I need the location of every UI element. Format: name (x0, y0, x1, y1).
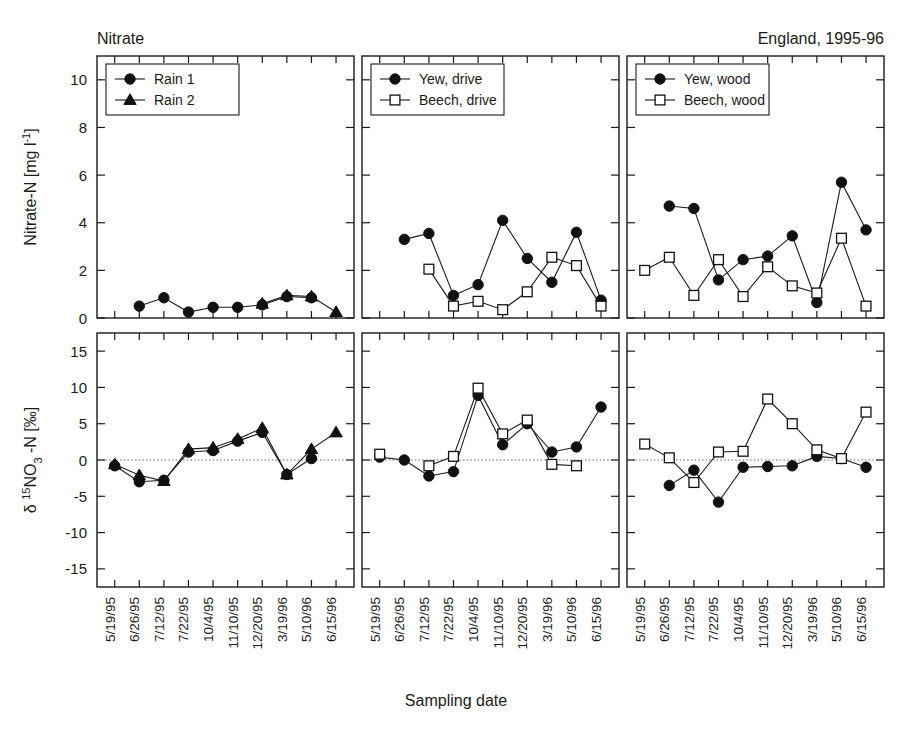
data-point (787, 231, 797, 241)
data-point (738, 254, 748, 264)
x-tick-label: 7/12/95 (682, 597, 697, 642)
data-point (596, 301, 606, 311)
data-point (497, 215, 507, 225)
x-tick-label: 3/19/96 (540, 597, 555, 642)
x-tick-label: 3/19/96 (275, 597, 290, 642)
data-point (522, 415, 532, 425)
data-point (812, 288, 822, 298)
x-tick-label: 7/22/95 (176, 597, 191, 642)
data-point (424, 264, 434, 274)
x-tick-label: 5/19/95 (368, 597, 383, 642)
legend-marker-filled-circle (390, 74, 400, 84)
data-point (208, 302, 218, 312)
data-point (689, 478, 699, 488)
legend-rain: Rain 1Rain 2 (106, 64, 239, 115)
y-tick-label-top: 4 (79, 214, 87, 231)
data-point (836, 177, 846, 187)
data-point (424, 471, 434, 481)
data-point (596, 402, 606, 412)
data-point (812, 297, 822, 307)
data-point (714, 447, 724, 457)
y-tick-label-bottom: -10 (65, 524, 87, 541)
data-point (762, 461, 772, 471)
legend-label: Yew, drive (419, 71, 483, 87)
y-axis-title-top: Nitrate-N [mg l-1] (20, 128, 39, 245)
data-point (787, 281, 797, 291)
data-point (498, 429, 508, 439)
data-point (497, 440, 507, 450)
data-point (399, 234, 409, 244)
x-tick-label: 7/12/95 (152, 597, 167, 642)
data-point (714, 255, 724, 265)
x-tick-label: 12/20/95 (250, 597, 265, 650)
x-tick-label: 5/10/96 (564, 597, 579, 642)
x-tick-label: 6/26/95 (127, 597, 142, 642)
data-point (134, 301, 144, 311)
legend-label: Beech, wood (684, 92, 765, 108)
data-point (306, 453, 316, 463)
data-point (424, 461, 434, 471)
y-tick-label-bottom: 5 (79, 415, 87, 432)
data-point (159, 293, 169, 303)
legend-marker-open-square (390, 95, 400, 105)
x-tick-label: 11/10/95 (756, 597, 771, 649)
y-tick-label-bottom: 15 (70, 343, 87, 360)
x-tick-label: 11/10/95 (491, 597, 506, 649)
x-tick-label: 5/10/96 (299, 597, 314, 642)
y-tick-label-top: 6 (79, 167, 87, 184)
data-point (812, 445, 822, 455)
legend-marker-filled-circle (655, 74, 665, 84)
data-point (664, 480, 674, 490)
y-tick-label-top: 2 (79, 262, 87, 279)
data-point (763, 394, 773, 404)
data-point (547, 459, 557, 469)
data-point (399, 455, 409, 465)
data-point (762, 251, 772, 261)
x-tick-label: 10/4/95 (466, 597, 481, 642)
y-tick-label-top: 10 (70, 71, 87, 88)
data-point (572, 261, 582, 271)
data-point (547, 252, 557, 262)
x-tick-label: 7/12/95 (417, 597, 432, 642)
figure-container: Rain 1Rain 2Yew, driveBeech, driveYew, w… (0, 0, 912, 734)
data-point (689, 203, 699, 213)
x-tick-label: 6/15/96 (589, 597, 604, 642)
x-tick-label: 7/22/95 (441, 597, 456, 642)
panel-bottom-middle (362, 333, 619, 587)
x-tick-label: 12/20/95 (780, 597, 795, 650)
data-point (738, 446, 748, 456)
data-point (861, 407, 871, 417)
data-point (424, 228, 434, 238)
data-point (571, 227, 581, 237)
x-tick-label: 6/15/96 (854, 597, 869, 642)
data-point (738, 462, 748, 472)
legend-marker-open-square (655, 95, 665, 105)
data-point (713, 275, 723, 285)
x-tick-label: 10/4/95 (201, 597, 216, 642)
x-tick-label: 11/10/95 (226, 597, 241, 649)
data-point (640, 439, 650, 449)
legend-label: Rain 2 (154, 92, 195, 108)
data-point (522, 253, 532, 263)
x-tick-label: 6/26/95 (392, 597, 407, 642)
data-point (448, 466, 458, 476)
data-point (571, 442, 581, 452)
data-point (861, 301, 871, 311)
data-point (664, 252, 674, 262)
x-tick-label: 5/10/96 (829, 597, 844, 642)
y-axis-title-bottom: δ 15NO3 -N [‰] (20, 407, 44, 513)
data-point (473, 296, 483, 306)
y-tick-label-bottom: 0 (79, 452, 87, 469)
x-tick-label: 6/15/96 (324, 597, 339, 642)
data-point (449, 301, 459, 311)
data-point (837, 233, 847, 243)
data-point (448, 290, 458, 300)
x-axis-title: Sampling date (405, 692, 507, 709)
y-tick-label-bottom: -15 (65, 560, 87, 577)
x-tick-label: 10/4/95 (731, 597, 746, 642)
data-point (572, 461, 582, 471)
y-tick-label-bottom: 10 (70, 379, 87, 396)
data-point (738, 292, 748, 302)
data-point (763, 262, 773, 272)
data-point (498, 305, 508, 315)
